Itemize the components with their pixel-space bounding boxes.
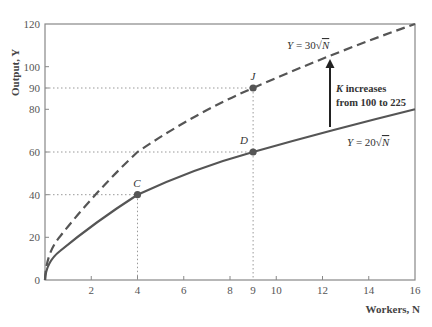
y-tick-40: 40 (29, 189, 41, 201)
y-axis-title: Output, Y (9, 49, 21, 96)
x-tick-9: 9 (250, 284, 256, 296)
y-tick-60: 60 (29, 146, 41, 158)
x-tick-16: 16 (410, 284, 422, 296)
x-axis-labels: 2 4 6 8 9 10 12 14 16 (89, 284, 422, 296)
capital-increase-arrow (326, 59, 335, 127)
annotation-line1: K increases (335, 83, 386, 94)
x-tick-12: 12 (317, 284, 328, 296)
curve-upper-label: Y = 30√N (287, 39, 330, 51)
y-tick-120: 120 (24, 18, 41, 30)
point-d (250, 148, 257, 155)
y-tick-80: 80 (29, 103, 41, 115)
annotation-line2: from 100 to 225 (336, 97, 406, 108)
reference-lines (45, 88, 253, 280)
x-tick-8: 8 (227, 284, 233, 296)
y-tick-100: 100 (24, 61, 41, 73)
curve-lower-solid-smooth (45, 109, 415, 280)
x-tick-2: 2 (89, 284, 95, 296)
x-axis-title: Workers, N (366, 303, 420, 315)
point-j-label: J (251, 70, 257, 82)
y-tick-20: 20 (29, 231, 41, 243)
point-c-label: C (133, 177, 141, 189)
x-tick-4: 4 (135, 284, 141, 296)
point-d-label: D (239, 134, 248, 146)
x-tick-6: 6 (181, 284, 187, 296)
y-axis-labels: 0 20 40 60 80 90 100 120 (24, 18, 41, 286)
x-tick-10: 10 (271, 284, 283, 296)
x-tick-14: 14 (363, 284, 375, 296)
y-tick-0: 0 (35, 274, 41, 286)
chart-canvas: 0 20 40 60 80 90 100 120 2 4 6 8 9 10 12… (0, 0, 432, 327)
point-j (250, 84, 257, 91)
point-c (134, 191, 141, 198)
y-tick-90: 90 (29, 82, 41, 94)
curve-lower-label: Y = 20√N (347, 136, 390, 148)
x-axis-ticks (91, 276, 369, 280)
